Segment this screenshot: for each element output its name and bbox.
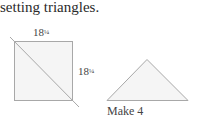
square-top-fraction: ¼: [44, 28, 49, 36]
square-side-fraction: ¼: [89, 67, 94, 75]
square-top-dimension: 18¼: [33, 26, 49, 38]
triangle-caption: Make 4: [107, 104, 143, 119]
square-top-whole: 18: [33, 26, 44, 38]
setting-triangle: [107, 60, 188, 101]
diagram-shapes: [0, 0, 197, 123]
square-side-dimension: 18¼: [78, 65, 94, 77]
square-side-whole: 18: [78, 65, 89, 77]
